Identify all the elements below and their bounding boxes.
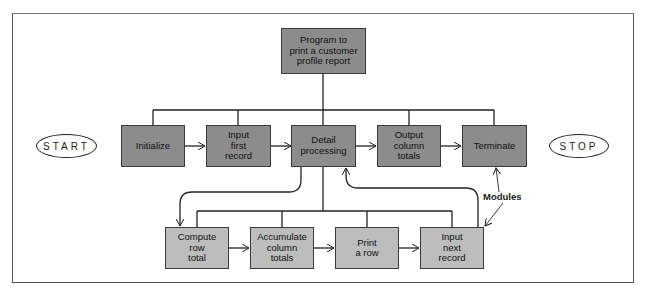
module-input-next-record: Input next record: [420, 227, 484, 269]
module-label: Detail processing: [301, 135, 347, 156]
stop-terminal: STOP: [549, 134, 609, 158]
start-terminal: START: [36, 134, 97, 158]
modules-annotation: Modules: [483, 191, 522, 202]
module-label: Output column totals: [394, 130, 425, 162]
module-label: Input next record: [439, 232, 466, 264]
module-label: Print a row: [355, 238, 378, 259]
module-accumulate-column-totals: Accumulate column totals: [250, 227, 314, 269]
start-label: START: [43, 141, 90, 152]
module-initialize: Initialize: [121, 125, 185, 167]
root-module-label: Program to print a customer profile repo…: [289, 35, 357, 67]
module-label: Initialize: [136, 141, 170, 152]
stop-label: STOP: [559, 141, 598, 152]
module-compute-row-total: Compute row total: [165, 227, 229, 269]
module-output-column-totals: Output column totals: [377, 125, 441, 167]
root-module-box: Program to print a customer profile repo…: [281, 28, 366, 74]
module-detail-processing: Detail processing: [291, 125, 356, 167]
module-input-first-record: Input first record: [206, 125, 271, 167]
module-label: Terminate: [474, 141, 516, 152]
module-label: Compute row total: [178, 232, 217, 264]
module-terminate: Terminate: [462, 125, 527, 167]
module-label: Input first record: [225, 130, 252, 162]
module-print-a-row: Print a row: [335, 227, 399, 269]
module-label: Accumulate column totals: [257, 232, 307, 264]
